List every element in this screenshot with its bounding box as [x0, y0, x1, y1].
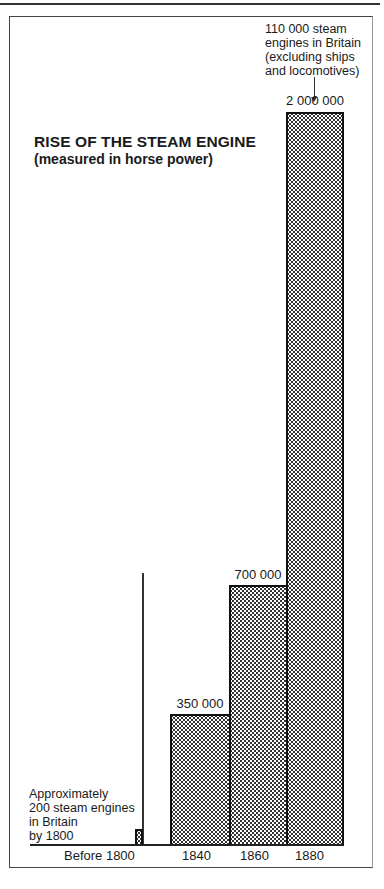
x-axis-baseline [30, 844, 343, 846]
divider-line [142, 573, 144, 845]
x-tick-before-1800: Before 1800 [64, 848, 135, 863]
chart-title: RISE OF THE STEAM ENGINE [34, 133, 256, 151]
annotation-1880: 110 000 steam engines in Britain (exclud… [265, 22, 361, 78]
chart-subtitle: (measured in horse power) [34, 151, 213, 168]
annotation-line: and locomotives) [265, 64, 361, 78]
x-tick-1840: 1840 [182, 848, 211, 863]
bar-1880 [286, 112, 344, 846]
annotation-line: by 1800 [29, 829, 135, 843]
x-tick-1860: 1860 [240, 848, 269, 863]
value-label-1840: 350 000 [160, 696, 240, 711]
annotation-line: in Britain [29, 815, 135, 829]
bar-1840 [170, 714, 231, 846]
annotation-line: 110 000 steam [265, 22, 361, 36]
annotation-1800: Approximately 200 steam engines in Brita… [29, 787, 135, 843]
value-label-1880: 2 000 000 [275, 93, 355, 108]
annotation-line: (excluding ships [265, 50, 361, 64]
annotation-line: engines in Britain [265, 36, 361, 50]
x-tick-1880: 1880 [295, 848, 324, 863]
top-rule [0, 3, 380, 5]
bar-1860 [229, 585, 288, 846]
annotation-line: 200 steam engines [29, 801, 135, 815]
annotation-line: Approximately [29, 787, 135, 801]
value-label-1860: 700 000 [218, 567, 298, 582]
